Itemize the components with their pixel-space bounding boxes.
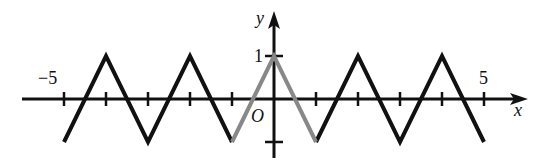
- x-tick-label-neg5: −5: [38, 68, 57, 88]
- x-axis-label: x: [513, 100, 522, 120]
- function-graph: −5 5 1 O x y: [0, 0, 543, 164]
- axes: [22, 11, 528, 158]
- y-tick-label-1: 1: [254, 46, 263, 66]
- x-tick-label-5: 5: [479, 68, 488, 88]
- y-axis-label: y: [254, 8, 264, 28]
- origin-label: O: [251, 106, 264, 126]
